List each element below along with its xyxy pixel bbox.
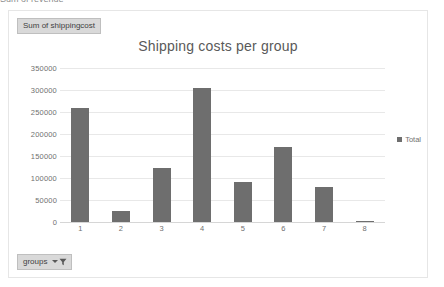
x-axis: 12345678 [60,224,385,233]
y-axis-tick-label: 150000 [31,152,57,161]
x-axis-tick-label: 8 [344,224,385,233]
y-axis-tick-label: 0 [53,218,57,227]
bar-8[interactable] [356,221,374,222]
bar-4[interactable] [193,88,211,222]
x-axis-tick-label: 1 [60,224,101,233]
legend-swatch-total [397,137,402,142]
bar-slot [344,68,385,222]
pivot-groups-field-button[interactable]: groups [17,254,72,270]
axis-baseline [60,222,385,223]
bar-3[interactable] [153,168,171,222]
y-axis-tick-label: 200000 [31,130,57,139]
y-axis: 3500003000002500002000001500001000005000… [13,68,57,222]
y-axis-tick-label: 100000 [31,174,57,183]
cut-off-text: Sum of revenue [0,0,64,4]
bar-slot [60,68,101,222]
bar-slot [263,68,304,222]
x-axis-tick-label: 2 [101,224,142,233]
chevron-down-icon[interactable] [52,260,58,263]
bar-1[interactable] [71,108,89,222]
x-axis-tick-label: 5 [223,224,264,233]
y-axis-tick-label: 250000 [31,108,57,117]
bar-7[interactable] [315,187,333,222]
x-axis-tick-label: 4 [182,224,223,233]
funnel-filter-icon[interactable] [59,258,67,266]
y-axis-tick-label: 300000 [31,86,57,95]
bar-slot [141,68,182,222]
pivot-groups-field-icons[interactable] [52,258,67,266]
x-axis-tick-label: 3 [141,224,182,233]
pivot-groups-field-label: groups [23,256,47,267]
bar-slot [223,68,264,222]
bar-5[interactable] [234,182,252,222]
x-axis-tick-label: 6 [263,224,304,233]
bar-slot [182,68,223,222]
cut-off-text-sliver: Sum of revenue [0,0,120,7]
bar-series-total[interactable] [60,68,385,222]
legend-label-total: Total [405,135,421,144]
plot-wrapper: 3500003000002500002000001500001000005000… [9,11,429,279]
plot-area [60,68,385,222]
pivot-chart-frame[interactable]: Sum of shippingcost Shipping costs per g… [8,10,428,278]
bar-slot [304,68,345,222]
chart-legend[interactable]: Total [397,135,421,144]
bar-6[interactable] [274,147,292,222]
x-axis-tick-label: 7 [304,224,345,233]
bar-slot [101,68,142,222]
bar-2[interactable] [112,211,130,222]
y-axis-tick-label: 50000 [35,196,57,205]
y-axis-tick-label: 350000 [31,64,57,73]
